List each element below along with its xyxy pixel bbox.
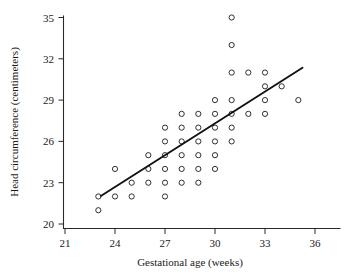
data-point [262,70,267,75]
data-point [246,70,251,75]
data-point [262,84,267,89]
data-point [162,180,167,185]
data-point [196,180,201,185]
data-point [179,180,184,185]
data-point [96,208,101,213]
data-point [229,125,234,130]
y-axis-ticks [59,18,64,225]
data-point [162,125,167,130]
scatter-plot-figure: 202326293235 212427303336 Gestational ag… [0,0,350,277]
data-point [296,98,301,103]
x-tick-label: 27 [160,237,172,249]
data-point [212,125,217,130]
data-point [179,166,184,171]
data-point [162,194,167,199]
data-point [146,180,151,185]
data-point [262,111,267,116]
data-point [262,98,267,103]
data-point [246,111,251,116]
data-point [162,166,167,171]
x-axis-tick-labels: 212427303336 [60,237,322,249]
data-point [212,166,217,171]
data-point [212,139,217,144]
x-tick-label: 33 [260,237,272,249]
data-point [196,125,201,130]
data-point [212,153,217,158]
data-point [112,194,117,199]
data-point [179,153,184,158]
x-tick-label: 21 [60,237,71,249]
data-point [129,180,134,185]
data-points [96,15,301,213]
data-point [212,98,217,103]
x-tick-label: 30 [210,237,222,249]
x-axis-ticks [65,229,315,235]
data-point [196,111,201,116]
y-axis-tick-labels: 202326293235 [43,12,55,231]
y-tick-label: 29 [43,94,55,106]
data-point [229,70,234,75]
y-axis-title: Head circumference (centimeters) [8,47,21,197]
data-point [229,139,234,144]
y-tick-label: 20 [43,218,55,230]
regression-line [101,68,303,196]
x-axis-title: Gestational age (weeks) [137,256,243,269]
chart-canvas: 202326293235 212427303336 Gestational ag… [0,0,350,277]
y-tick-label: 23 [43,177,55,189]
y-tick-label: 26 [43,135,55,147]
data-point [229,98,234,103]
data-point [196,139,201,144]
data-point [112,166,117,171]
data-point [129,194,134,199]
data-point [279,84,284,89]
y-tick-label: 35 [43,12,55,24]
y-axis: 202326293235 [43,12,64,231]
x-axis: 212427303336 [60,229,341,250]
y-tick-label: 32 [43,53,54,65]
x-tick-label: 36 [310,237,322,249]
data-point [196,166,201,171]
data-point [196,153,201,158]
data-point [179,125,184,130]
data-point [146,153,151,158]
data-point [162,139,167,144]
x-tick-label: 24 [110,237,122,249]
data-point [212,111,217,116]
data-point [179,111,184,116]
data-point [229,42,234,47]
data-point [229,15,234,20]
